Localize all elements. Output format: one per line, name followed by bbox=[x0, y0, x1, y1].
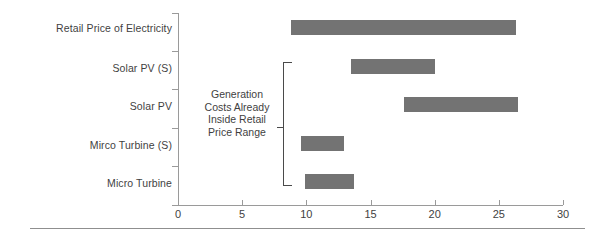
y-axis-tick-0 bbox=[172, 13, 178, 14]
x-axis-line bbox=[178, 205, 563, 206]
bar-mirco-turbine-s bbox=[301, 136, 343, 151]
y-axis-tick-4 bbox=[172, 166, 178, 167]
x-axis-tick-label-30: 30 bbox=[557, 208, 569, 221]
x-axis-tick-10 bbox=[306, 200, 307, 205]
bar-retail-price-of-electricity bbox=[291, 20, 516, 35]
x-axis-tick-30 bbox=[563, 200, 564, 205]
x-axis-tick-label-20: 20 bbox=[429, 208, 441, 221]
bar-solar-pv-s bbox=[351, 59, 434, 74]
y-axis-tick-3 bbox=[172, 128, 178, 129]
y-axis-line bbox=[178, 13, 179, 205]
bar-solar-pv bbox=[404, 97, 518, 112]
bar-micro-turbine bbox=[305, 174, 354, 189]
annotation-bracket bbox=[283, 62, 292, 186]
category-label-micro-turbine: Micro Turbine bbox=[107, 177, 172, 189]
y-axis-tick-2 bbox=[172, 89, 178, 90]
x-axis-tick-label-5: 5 bbox=[239, 208, 245, 221]
x-axis-tick-label-25: 25 bbox=[493, 208, 505, 221]
category-label-solar-pv-s: Solar PV (S) bbox=[112, 62, 172, 74]
footer-divider bbox=[30, 228, 585, 229]
x-axis-tick-25 bbox=[499, 200, 500, 205]
x-axis-tick-0 bbox=[178, 200, 179, 205]
range-bar-chart: Retail Price of Electricity Solar PV (S)… bbox=[0, 0, 600, 240]
x-axis-tick-15 bbox=[371, 200, 372, 205]
x-axis-tick-label-10: 10 bbox=[300, 208, 312, 221]
category-label-retail-price-of-electricity: Retail Price of Electricity bbox=[56, 22, 172, 34]
y-axis-tick-1 bbox=[172, 51, 178, 52]
x-axis-tick-5 bbox=[242, 200, 243, 205]
category-label-mirco-turbine-s: Mirco Turbine (S) bbox=[90, 139, 172, 151]
x-axis-tick-label-15: 15 bbox=[364, 208, 376, 221]
x-axis-tick-label-0: 0 bbox=[175, 208, 181, 221]
annotation-bracket-stub bbox=[277, 127, 283, 128]
x-axis-tick-20 bbox=[435, 200, 436, 205]
generation-costs-annotation: Generation Costs Already Inside Retail P… bbox=[196, 88, 278, 138]
category-label-solar-pv: Solar PV bbox=[130, 100, 172, 112]
